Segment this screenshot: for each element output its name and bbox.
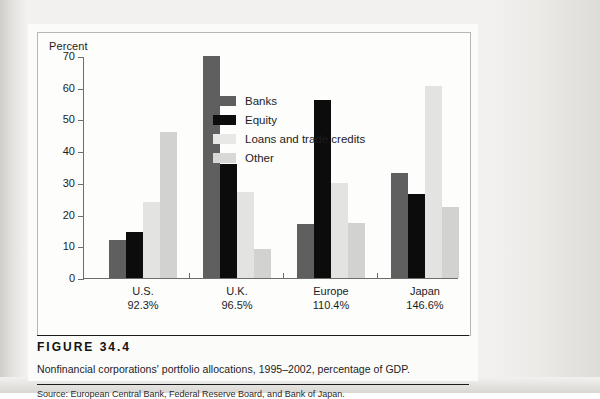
page-left-shadow [0,0,26,393]
y-axis-tick-label: 0 [69,272,75,284]
legend-swatch-other [213,153,236,163]
y-axis-tick-label: 20 [63,209,75,221]
y-axis-tick-mark [78,57,84,58]
y-axis-tick: 40 [83,152,84,153]
y-axis-tick-label: 10 [63,240,75,252]
legend-item: Other [213,150,365,166]
y-axis-tick-mark [78,216,84,217]
bar-other [442,207,459,278]
y-axis-tick-label: 30 [63,177,75,189]
caption-rule-bottom [37,384,469,385]
figure-card: Percent 010203040506070 U.S.92.3%U.K.96.… [28,24,478,381]
x-axis-separator-tick [283,273,284,278]
y-axis-tick-mark [78,89,84,90]
chart-legend: BanksEquityLoans and trade creditsOther [213,93,365,169]
y-axis-tick: 30 [83,184,84,185]
bar-loans-and-trade-credits [143,202,160,278]
y-axis-tick: 10 [83,247,84,248]
y-axis-tick-mark [78,152,84,153]
y-axis-tick: 70 [83,57,84,58]
bar-equity [408,194,425,278]
legend-label: Banks [245,95,277,107]
x-axis-category-label: Europe110.4% [297,284,365,312]
x-axis-category-label: U.K.96.5% [203,284,271,312]
y-axis-tick: 50 [83,120,84,121]
y-axis-tick: 20 [83,216,84,217]
y-axis-tick-mark [78,247,84,248]
bar-banks [297,224,314,278]
legend-swatch-banks [213,96,236,106]
caption-rule-top [37,335,469,336]
figure-number: FIGURE 34.4 [37,340,469,354]
legend-label: Equity [245,114,277,126]
x-axis-category-percent: 96.5% [203,298,271,312]
y-axis-tick: 60 [83,89,84,90]
x-axis-category-percent: 146.6% [391,298,459,312]
x-axis-category-name: U.S. [132,285,153,297]
y-axis-tick-mark [78,184,84,185]
bar-loans-and-trade-credits [425,86,442,278]
x-axis-category-percent: 110.4% [297,298,365,312]
bar-banks [391,173,408,278]
bar-group-bars [109,56,177,278]
y-axis-tick-label: 50 [63,113,75,125]
bar-other [254,249,271,278]
bar-other [160,132,177,278]
bar-banks [109,240,126,278]
x-axis-separator-tick [189,273,190,278]
x-axis-category-name: U.K. [226,285,247,297]
legend-label: Other [245,152,274,164]
bar-equity [126,232,143,278]
chart-plot-frame: Percent 010203040506070 U.S.92.3%U.K.96.… [37,32,471,336]
y-axis-line [83,57,84,279]
y-axis-tick-mark [78,279,84,280]
y-axis-tick: 0 [83,279,84,280]
y-axis-tick-label: 70 [63,50,75,62]
y-axis-tick-mark [78,120,84,121]
y-axis-tick-label: 40 [63,145,75,157]
y-axis-tick-label: 60 [63,82,75,94]
x-axis-category-label: Japan146.6% [391,284,459,312]
legend-swatch-equity [213,115,236,125]
bar-loans-and-trade-credits [237,192,254,278]
figure-caption-area: FIGURE 34.4 Nonfinancial corporations' p… [37,340,469,382]
x-axis-category-name: Japan [410,285,440,297]
figure-caption-text: Nonfinancial corporations' portfolio all… [37,363,469,375]
figure-source-text: Source: European Central Bank, Federal R… [37,389,469,399]
bar-group-bars [391,56,459,278]
x-axis-category-label: U.S.92.3% [109,284,177,312]
page-right-shadow [490,0,600,393]
bar-loans-and-trade-credits [331,183,348,278]
legend-label: Loans and trade credits [245,133,365,145]
legend-item: Equity [213,112,365,128]
x-axis-separator-tick [377,273,378,278]
x-axis-category-name: Europe [313,285,348,297]
x-axis-line [83,278,458,279]
legend-swatch-loans-and-trade-credits [213,134,236,144]
bar-equity [220,164,237,278]
legend-item: Loans and trade credits [213,131,365,147]
x-axis-category-percent: 92.3% [109,298,177,312]
legend-item: Banks [213,93,365,109]
bar-other [348,223,365,279]
